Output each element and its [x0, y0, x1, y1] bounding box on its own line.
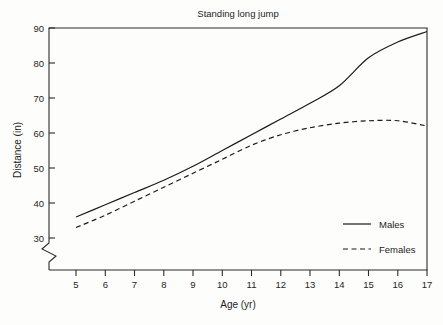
x-tick-label: 12: [276, 279, 287, 290]
series-line-females: [76, 120, 427, 227]
x-tick-label: 6: [103, 279, 108, 290]
x-tick-label: 8: [161, 279, 166, 290]
x-axis-title: Age (yr): [220, 299, 256, 310]
y-tick-label: 30: [33, 233, 44, 244]
series-line-males: [76, 32, 427, 218]
y-tick-label: 40: [33, 198, 44, 209]
x-axis-tick-labels: 5 6 7 8 9 10 11 12 13 14 15 16 17: [73, 279, 432, 290]
x-tick-label: 17: [422, 279, 433, 290]
chart-title: Standing long jump: [197, 8, 278, 19]
x-tick-label: 16: [393, 279, 404, 290]
y-tick-label: 90: [33, 23, 44, 34]
standing-long-jump-line-chart: 90 80 70 60 50 40 30 5 6: [0, 0, 443, 325]
x-tick-label: 10: [217, 279, 228, 290]
x-tick-label: 15: [363, 279, 374, 290]
x-tick-label: 14: [334, 279, 345, 290]
y-axis-tick-labels: 90 80 70 60 50 40 30: [33, 23, 44, 244]
chart-figure: 90 80 70 60 50 40 30 5 6: [0, 0, 443, 325]
y-axis-ticks: [49, 28, 55, 238]
y-tick-label: 70: [33, 93, 44, 104]
chart-legend: Males Females: [343, 219, 416, 255]
y-tick-label: 50: [33, 163, 44, 174]
x-tick-label: 5: [73, 279, 78, 290]
y-tick-label: 60: [33, 128, 44, 139]
legend-label-males: Males: [379, 219, 405, 230]
x-axis-ticks: [76, 270, 427, 276]
x-tick-label: 11: [247, 279, 257, 290]
y-tick-label: 80: [33, 58, 44, 69]
y-axis-title: Distance (in): [12, 122, 23, 178]
plot-frame: [42, 28, 428, 270]
legend-label-females: Females: [379, 244, 416, 255]
x-tick-label: 7: [132, 279, 137, 290]
x-tick-label: 9: [190, 279, 195, 290]
x-tick-label: 13: [305, 279, 316, 290]
